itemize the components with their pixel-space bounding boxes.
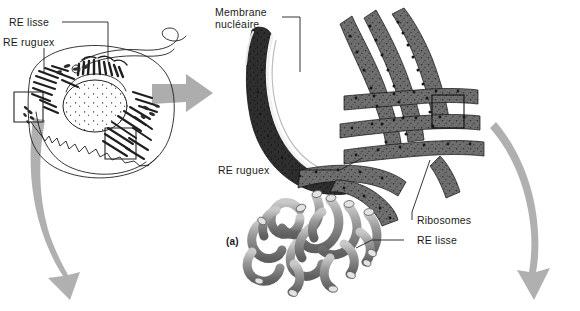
er-figure: RE lisse RE ruguex Membrane nucléaire RE… bbox=[0, 0, 580, 311]
label-re-lisse-left: RE lisse bbox=[9, 16, 49, 28]
label-membrane-nucleaire-line2: nucléaire bbox=[215, 19, 267, 31]
er-detail-micrograph bbox=[0, 0, 580, 311]
smooth-er-tubules bbox=[247, 196, 377, 292]
label-re-rugueux-left: RE ruguex bbox=[3, 36, 54, 48]
label-re-lisse-right: RE lisse bbox=[417, 234, 457, 246]
label-membrane-nucleaire: Membrane nucléaire bbox=[215, 7, 267, 30]
label-ribosomes: Ribosomes bbox=[417, 214, 471, 226]
label-re-rugueux-right: RE ruguex bbox=[218, 164, 269, 176]
label-membrane-nucleaire-line1: Membrane bbox=[215, 7, 267, 19]
panel-label: (a) bbox=[226, 236, 239, 248]
